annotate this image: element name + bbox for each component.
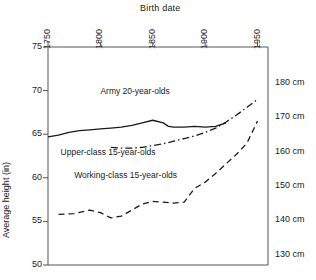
- series-line: [58, 121, 257, 218]
- series-lines: [48, 99, 258, 218]
- axes-frame: [43, 42, 268, 265]
- series-line: [111, 99, 258, 148]
- plot-area: [0, 0, 316, 280]
- height-trend-chart: Birth date Average height (in) 175018001…: [0, 0, 316, 280]
